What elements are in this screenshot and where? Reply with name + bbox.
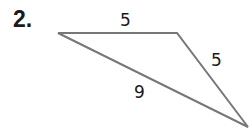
side-label-long: 9 (134, 82, 145, 102)
side-label-right: 5 (211, 50, 222, 70)
triangle (58, 33, 248, 127)
triangle-diagram: 5 5 9 (0, 0, 252, 138)
side-label-top: 5 (120, 10, 131, 30)
